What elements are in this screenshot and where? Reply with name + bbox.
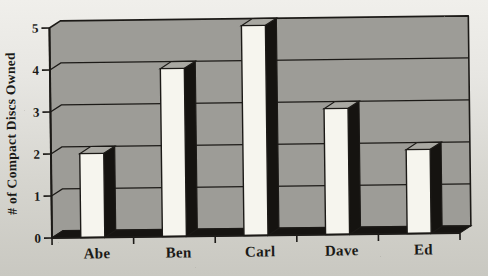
y-tick-label-2: 2 xyxy=(33,147,40,162)
y-tick-label-4: 4 xyxy=(32,63,39,78)
bar-ed-front xyxy=(406,149,431,233)
bar-abe-front xyxy=(80,153,105,237)
category-label-ben: Ben xyxy=(166,244,192,260)
bar-ed-side xyxy=(430,142,442,233)
y-tick-label-0: 0 xyxy=(34,231,41,246)
category-label-dave: Dave xyxy=(325,242,359,258)
y-tick-label-1: 1 xyxy=(34,189,41,204)
bar-carl-front xyxy=(241,25,268,235)
cd-ownership-bar-chart: 012345AbeBenCarlDaveEd# of Compact Discs… xyxy=(0,0,488,276)
chart-tilt-wrapper: 012345AbeBenCarlDaveEd# of Compact Discs… xyxy=(0,0,488,276)
bar-ben-front xyxy=(160,68,186,236)
scanned-page: 012345AbeBenCarlDaveEd# of Compact Discs… xyxy=(0,0,488,276)
category-label-ed: Ed xyxy=(414,241,433,257)
y-tick-label-3: 3 xyxy=(33,105,40,120)
y-axis-title: # of Compact Discs Owned xyxy=(3,52,20,215)
y-tick-label-5: 5 xyxy=(32,21,39,36)
bar-abe-side xyxy=(104,146,116,237)
category-label-abe: Abe xyxy=(84,245,111,261)
category-label-carl: Carl xyxy=(245,243,276,259)
bar-dave-front xyxy=(324,108,350,234)
